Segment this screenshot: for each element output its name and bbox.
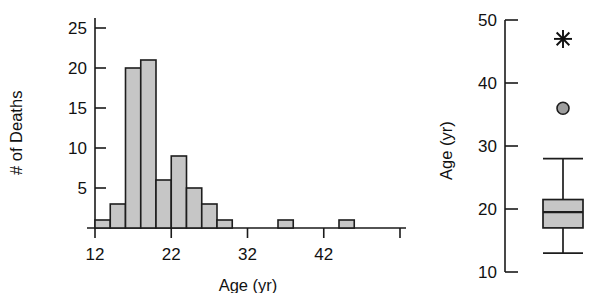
histogram-bar <box>339 220 354 228</box>
histogram-bar <box>126 68 141 228</box>
right-y-tick-label: 50 <box>478 11 497 30</box>
right-y-tick-label: 40 <box>478 74 497 93</box>
histogram-bar <box>156 180 171 228</box>
left-x-axis-title: Age (yr) <box>219 276 278 293</box>
left-x-tick-label: 22 <box>162 245 181 264</box>
left-y-tick-label: 25 <box>68 19 87 38</box>
histogram-bar <box>202 204 217 228</box>
boxplot-outlier-circle <box>557 102 569 114</box>
right-y-tick-label: 30 <box>478 137 497 156</box>
left-y-axis-title: # of Deaths <box>7 91 25 175</box>
figure-container: 51015202512223242# of DeathsAge (yr)1020… <box>0 0 593 293</box>
histogram-bar <box>141 60 156 228</box>
right-y-axis-title: Age (yr) <box>437 121 455 180</box>
histogram-bar <box>217 220 232 228</box>
left-y-tick-label: 15 <box>68 99 87 118</box>
boxplot-outlier-asterisk <box>554 30 572 48</box>
right-y-tick-label: 10 <box>478 263 497 282</box>
histogram-bar <box>187 188 202 228</box>
left-x-tick-label: 32 <box>238 245 257 264</box>
histogram-bar <box>95 220 110 228</box>
histogram-bar <box>110 204 125 228</box>
left-x-tick-label: 12 <box>86 245 105 264</box>
right-y-tick-label: 20 <box>478 200 497 219</box>
statistics-figure: 51015202512223242# of DeathsAge (yr)1020… <box>0 0 593 293</box>
histogram-bar <box>278 220 293 228</box>
histogram-bar <box>171 156 186 228</box>
left-y-tick-label: 20 <box>68 59 87 78</box>
left-y-tick-label: 10 <box>68 139 87 158</box>
left-y-tick-label: 5 <box>78 179 87 198</box>
left-x-tick-label: 42 <box>314 245 333 264</box>
boxplot-box <box>543 200 583 228</box>
